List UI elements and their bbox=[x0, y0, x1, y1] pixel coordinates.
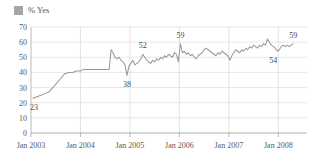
y-axis-tick-labels: 010203040506070 bbox=[19, 23, 27, 138]
chart-container: % Yes 010203040506070 Jan 2003Jan 2004Ja… bbox=[0, 0, 315, 161]
y-axis-tick-label: 70 bbox=[19, 23, 27, 32]
vertical-gridlines bbox=[80, 27, 278, 133]
y-axis-tick-label: 50 bbox=[19, 53, 27, 62]
x-axis-tick-label: Jan 2006 bbox=[165, 141, 194, 150]
x-axis-tick-label: Jan 2004 bbox=[66, 141, 95, 150]
data-series-line-pct-yes bbox=[33, 39, 293, 98]
x-axis-tick-label: Jan 2007 bbox=[215, 141, 244, 150]
gridlines bbox=[31, 27, 307, 133]
data-point-annotation: 38 bbox=[123, 80, 131, 89]
data-point-annotation: 59 bbox=[289, 31, 297, 40]
data-point-annotations: 233852595459 bbox=[30, 31, 297, 113]
y-axis-tick-label: 30 bbox=[19, 84, 27, 93]
data-point-annotation: 23 bbox=[30, 103, 38, 112]
y-axis-tick-label: 0 bbox=[23, 129, 27, 138]
y-axis-tick-label: 40 bbox=[19, 68, 27, 77]
line-chart-plot: 010203040506070 Jan 2003Jan 2004Jan 2005… bbox=[0, 0, 315, 161]
y-axis-tick-label: 10 bbox=[19, 114, 27, 123]
x-axis-tick-label: Jan 2008 bbox=[264, 141, 293, 150]
x-axis-tick-label: Jan 2003 bbox=[17, 141, 46, 150]
data-point-annotation: 59 bbox=[176, 31, 184, 40]
x-axis-tick-label: Jan 2005 bbox=[116, 141, 145, 150]
x-axis-tick-labels: Jan 2003Jan 2004Jan 2005Jan 2006Jan 2007… bbox=[17, 141, 293, 150]
y-axis-tick-label: 60 bbox=[19, 38, 27, 47]
y-axis-tick-label: 20 bbox=[19, 99, 27, 108]
x-axis-tick-marks bbox=[31, 133, 278, 137]
data-point-annotation: 54 bbox=[269, 56, 277, 65]
data-point-annotation: 52 bbox=[139, 41, 147, 50]
